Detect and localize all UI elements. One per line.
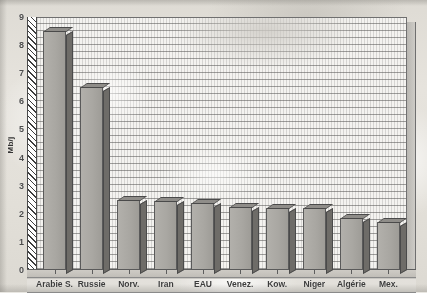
bar-side-face: [66, 31, 73, 274]
x-axis-tick-mark: [129, 269, 130, 274]
bar-side-face: [177, 201, 184, 274]
bar: [117, 200, 140, 270]
bar-front-face: [266, 208, 289, 270]
y-axis-tick-label: 5: [4, 124, 24, 134]
bar: [266, 208, 289, 270]
bar-top-face: [191, 199, 221, 204]
bar: [377, 222, 400, 270]
bar-top-face: [154, 197, 184, 202]
y-axis-tick-label: 2: [4, 209, 24, 219]
bar: [154, 201, 177, 270]
x-axis-tick-mark: [277, 269, 278, 274]
x-axis-tick-mark: [240, 269, 241, 274]
bar-front-face: [303, 208, 326, 270]
bar: [80, 87, 103, 270]
bar-side-face: [252, 207, 259, 274]
page-edge-top: [0, 0, 427, 6]
x-axis-tick-mark: [55, 269, 56, 274]
bar-top-face: [229, 203, 259, 208]
bar: [340, 218, 363, 270]
x-axis-tick-mark: [92, 269, 93, 274]
y-axis-tick-label: 1: [4, 237, 24, 247]
bar-front-face: [80, 87, 103, 270]
bar-front-face: [377, 222, 400, 270]
bar-front-face: [117, 200, 140, 270]
bar-side-face: [140, 200, 147, 274]
bar-front-face: [43, 31, 66, 270]
bar-top-face: [43, 27, 73, 32]
bar-front-face: [340, 218, 363, 270]
bar-top-face: [117, 196, 147, 201]
bar: [43, 31, 66, 270]
y-axis-tick-label: 4: [4, 153, 24, 163]
bar-side-face: [363, 218, 370, 274]
x-axis-tick-mark: [203, 269, 204, 274]
x-axis-tick-mark: [388, 269, 389, 274]
y-axis-tick-label: 8: [4, 40, 24, 50]
bar-chart: 0123456789 Mb/j Arabie S.RussieNorv.Iran…: [24, 5, 422, 287]
y-axis-tick-label: 0: [4, 265, 24, 275]
bar-side-face: [400, 222, 407, 274]
bar-series: [36, 17, 407, 270]
y-axis-tick-label: 7: [4, 68, 24, 78]
bar-top-face: [266, 204, 296, 209]
bar-front-face: [154, 201, 177, 270]
page-edge-bottom: [0, 284, 427, 292]
bar-side-face: [103, 87, 110, 274]
x-axis-tick-mark: [166, 269, 167, 274]
bar-top-face: [377, 218, 407, 223]
x-axis-tick-mark: [351, 269, 352, 274]
x-axis-tick-mark: [314, 269, 315, 274]
bar: [303, 208, 326, 270]
bar-top-face: [80, 83, 110, 88]
bar-side-face: [214, 203, 221, 274]
bar-top-face: [303, 204, 333, 209]
bar: [229, 207, 252, 270]
y-axis-tick-label: 9: [4, 12, 24, 22]
page-edge-left: [0, 0, 7, 292]
bar-side-face: [289, 208, 296, 274]
bar: [191, 203, 214, 270]
bar-front-face: [229, 207, 252, 270]
y-axis-label: Mb/j: [6, 137, 15, 154]
y-axis-tick-label: 6: [4, 96, 24, 106]
bar-front-face: [191, 203, 214, 270]
y-axis-tick-label: 3: [4, 181, 24, 191]
bar-side-face: [326, 208, 333, 274]
plot-side-wall: [407, 22, 416, 275]
bar-top-face: [340, 214, 370, 219]
